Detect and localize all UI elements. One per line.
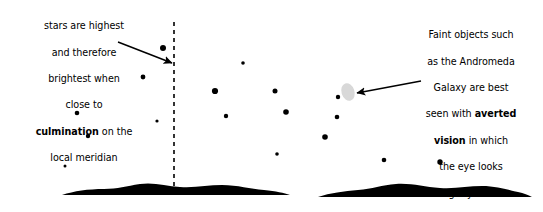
caption-right-after-bold: in which	[466, 135, 508, 146]
star-15	[382, 158, 387, 163]
caption-right-bold-term-1: averted	[475, 108, 517, 119]
caption-left-line-3: brightest when	[48, 73, 120, 84]
star-10	[283, 109, 289, 115]
caption-left-last-line: local meridian	[50, 152, 117, 163]
caption-right-line-2: as the Andromeda	[427, 56, 514, 67]
caption-left-line-1: stars are highest	[44, 20, 124, 31]
star-12	[336, 95, 340, 99]
star-6	[212, 88, 218, 94]
caption-left-line-4: close to	[66, 99, 103, 110]
caption-left-after-bold: on the	[99, 126, 132, 137]
culmination-caption: stars are highest and therefore brightes…	[8, 6, 160, 164]
caption-right-tail-2: slightly to the	[438, 188, 503, 199]
star-14	[322, 134, 328, 140]
caption-right-line-4: seen with	[426, 108, 475, 119]
averted-vision-caption: Faint objects such as the Andromeda Gala…	[404, 15, 538, 212]
star-4	[64, 165, 67, 168]
star-11	[275, 152, 279, 156]
caption-left-bold-term: culmination	[36, 126, 99, 137]
caption-right-line-3: Galaxy are best	[434, 82, 509, 93]
caption-right-tail-1: the eye looks	[439, 161, 503, 172]
andromeda-galaxy	[339, 81, 357, 102]
caption-left-line-2: and therefore	[52, 47, 117, 58]
star-0	[160, 45, 166, 51]
star-13	[335, 115, 340, 120]
astronomy-diagram: stars are highest and therefore brightes…	[0, 0, 543, 212]
star-7	[273, 89, 278, 94]
horizon-left	[62, 183, 290, 195]
star-5	[241, 61, 245, 65]
andromeda-galaxy	[339, 81, 357, 102]
caption-right-line-1: Faint objects such	[428, 29, 513, 40]
star-9	[224, 114, 228, 118]
caption-right-bold-term-2: vision	[434, 135, 466, 146]
